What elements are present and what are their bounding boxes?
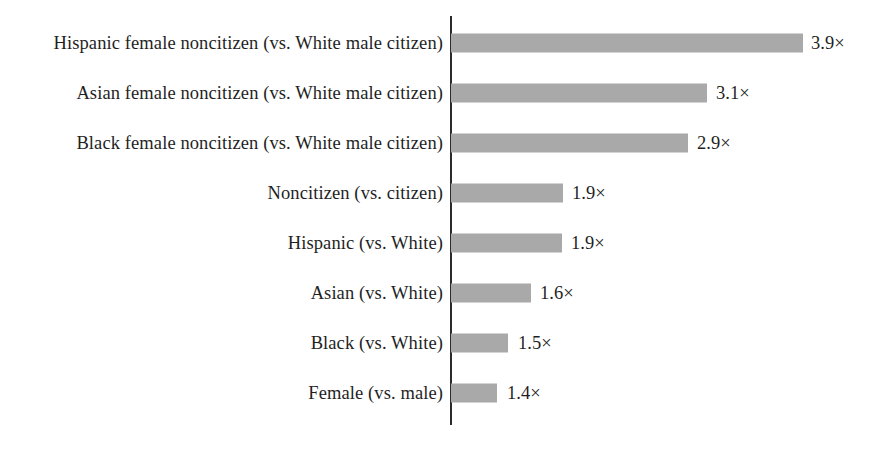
- bar-chart: Hispanic female noncitizen (vs. White ma…: [0, 0, 877, 452]
- category-label: Female (vs. male): [308, 384, 443, 403]
- bar-track: [451, 84, 707, 103]
- category-label: Hispanic female noncitizen (vs. White ma…: [53, 34, 443, 53]
- bar-row: Female (vs. male) 1.4×: [0, 379, 877, 407]
- bar-value-label: 1.6×: [540, 284, 574, 303]
- bar-row: Asian female noncitizen (vs. White male …: [0, 79, 877, 107]
- bar-track: [451, 234, 562, 253]
- bar-row: Asian (vs. White) 1.6×: [0, 279, 877, 307]
- category-label: Black (vs. White): [311, 334, 443, 353]
- category-label: Asian (vs. White): [311, 284, 443, 303]
- bar-fill: [451, 184, 563, 203]
- category-label: Hispanic (vs. White): [288, 234, 443, 253]
- bar-track: [451, 184, 563, 203]
- chart-rows-container: Hispanic female noncitizen (vs. White ma…: [0, 0, 877, 452]
- bar-value-label: 1.9×: [572, 184, 606, 203]
- bar-track: [451, 34, 803, 53]
- bar-value-label: 1.5×: [518, 334, 552, 353]
- bar-track: [451, 134, 688, 153]
- bar-value-label: 3.9×: [811, 34, 845, 53]
- category-label: Black female noncitizen (vs. White male …: [76, 134, 443, 153]
- bar-row: Noncitizen (vs. citizen) 1.9×: [0, 179, 877, 207]
- bar-value-label: 2.9×: [697, 134, 731, 153]
- bar-value-label: 1.4×: [507, 384, 541, 403]
- category-label: Asian female noncitizen (vs. White male …: [76, 84, 443, 103]
- bar-fill: [451, 334, 508, 353]
- bar-fill: [451, 384, 497, 403]
- bar-fill: [451, 84, 707, 103]
- bar-track: [451, 284, 531, 303]
- bar-fill: [451, 134, 688, 153]
- bar-row: Black (vs. White) 1.5×: [0, 329, 877, 357]
- category-label: Noncitizen (vs. citizen): [267, 184, 443, 203]
- bar-row: Hispanic (vs. White) 1.9×: [0, 229, 877, 257]
- bar-track: [451, 334, 508, 353]
- bar-value-label: 3.1×: [716, 84, 750, 103]
- bar-track: [451, 384, 497, 403]
- bar-value-label: 1.9×: [571, 234, 605, 253]
- bar-row: Black female noncitizen (vs. White male …: [0, 129, 877, 157]
- bar-fill: [451, 284, 531, 303]
- bar-fill: [451, 234, 562, 253]
- bar-fill: [451, 34, 803, 53]
- bar-row: Hispanic female noncitizen (vs. White ma…: [0, 29, 877, 57]
